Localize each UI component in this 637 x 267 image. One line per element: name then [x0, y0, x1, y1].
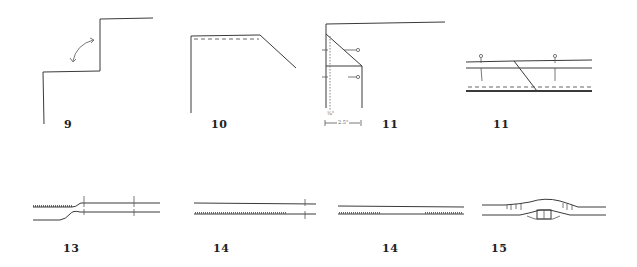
figure-label-15: 15 [491, 242, 507, 255]
figure-label-9: 9 [64, 118, 72, 131]
figure-label-14b: 14 [382, 242, 398, 255]
figure-10-drawing [191, 35, 296, 113]
diagram-canvas [0, 0, 637, 267]
figure-11b-drawing [466, 54, 592, 91]
width-annotation: 2.5" [337, 119, 349, 125]
seam-allowance-annotation: ¾" [327, 110, 334, 116]
figure-14a-drawing [194, 199, 316, 219]
figure-label-10: 10 [211, 118, 227, 131]
figure-14b-drawing [338, 206, 464, 214]
figure-13-drawing [33, 196, 160, 220]
figure-label-11b: 11 [493, 118, 509, 131]
figure-11a-drawing [322, 22, 445, 126]
figure-15-drawing [482, 199, 606, 219]
figure-9-drawing [43, 18, 153, 124]
figure-label-11a: 11 [382, 118, 398, 131]
figure-label-13: 13 [63, 242, 79, 255]
figure-label-14a: 14 [213, 242, 229, 255]
